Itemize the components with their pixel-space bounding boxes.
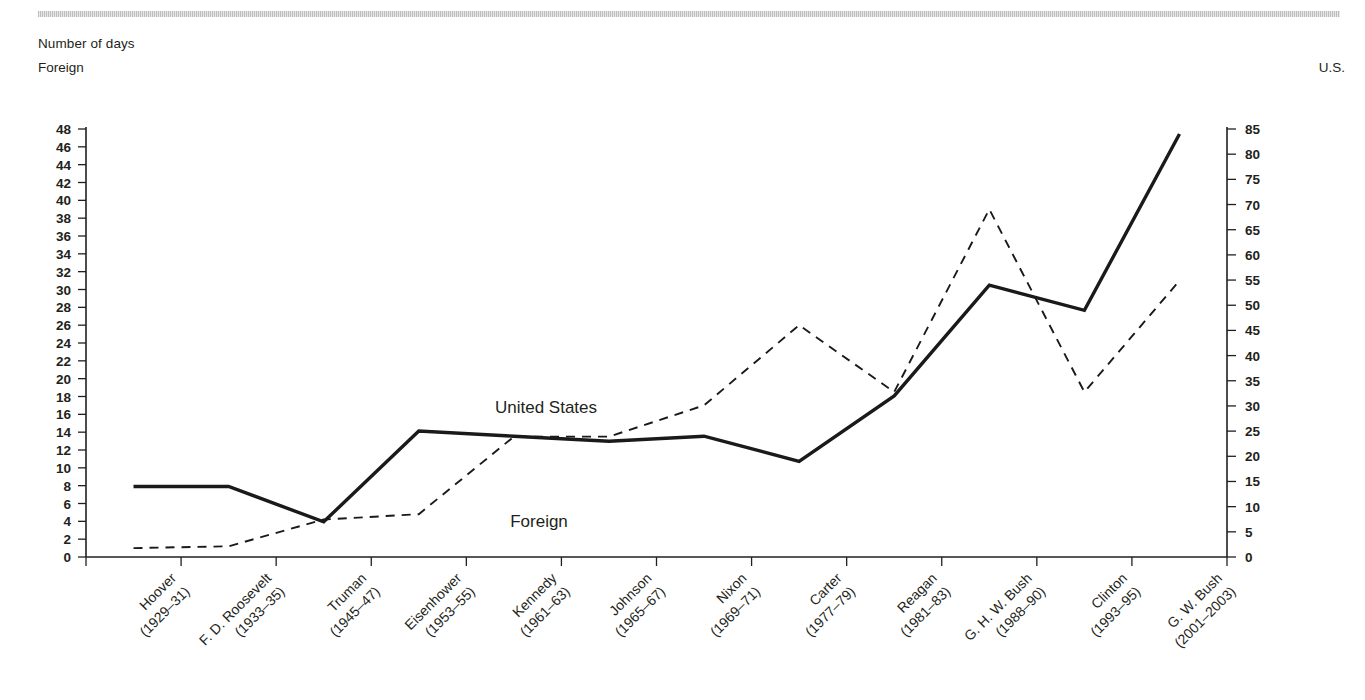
left-axis-tick-label: 8 — [63, 479, 71, 494]
x-axis-category-label: Reagan(1981–83) — [883, 570, 953, 640]
right-axis-tick-label: 35 — [1245, 374, 1261, 389]
right-axis-tick-label: 65 — [1245, 223, 1261, 238]
right-axis-tick-label: 10 — [1245, 500, 1260, 515]
left-axis-tick-label: 26 — [56, 318, 72, 333]
x-axis-category-label: Johnson(1965–67) — [598, 570, 668, 640]
right-axis-tick-label: 75 — [1245, 172, 1261, 187]
left-axis-tick-label: 12 — [56, 443, 71, 458]
left-axis-tick-label: 46 — [56, 140, 72, 155]
left-axis-tick-label: 24 — [56, 336, 72, 351]
left-axis-tick-label: 38 — [56, 211, 72, 226]
series-line-foreign — [134, 209, 1180, 548]
left-axis-tick-label: 32 — [56, 265, 71, 280]
x-axis-category-label: Clinton(1993–95) — [1074, 570, 1144, 640]
x-axis-category-label: Nixon(1969–71) — [693, 570, 763, 640]
left-axis-tick-label: 48 — [56, 122, 72, 137]
left-axis-tick-label: 40 — [56, 193, 71, 208]
x-axis-category-label: G. W. Bush(2001–2003) — [1158, 570, 1239, 651]
right-axis-tick-label: 85 — [1245, 122, 1261, 137]
x-axis-category-label: Kennedy(1961–63) — [503, 570, 573, 640]
right-axis-tick-label: 30 — [1245, 399, 1260, 414]
right-axis-tick-label: 40 — [1245, 349, 1260, 364]
right-axis-tick-label: 20 — [1245, 449, 1260, 464]
x-axis-category-label: Eisenhower(1953–55) — [401, 570, 478, 647]
right-axis-tick-label: 55 — [1245, 273, 1261, 288]
right-axis-tick-label: 70 — [1245, 198, 1260, 213]
right-axis-tick-label: 0 — [1245, 550, 1253, 565]
right-axis-tick-label: 15 — [1245, 474, 1261, 489]
x-axis-category-label: Truman(1945–47) — [313, 570, 383, 640]
x-axis-category-label: G. H. W. Bush(1988–90) — [961, 570, 1048, 657]
left-axis-tick-label: 22 — [56, 354, 71, 369]
right-axis-tick-label: 45 — [1245, 323, 1261, 338]
x-axis-category-label: F. D. Roosevelt(1933–35) — [196, 570, 288, 662]
right-axis-tick-label: 5 — [1245, 525, 1253, 540]
left-axis-tick-label: 4 — [63, 514, 71, 529]
series-label-foreign: Foreign — [510, 512, 568, 531]
line-chart: 0246810121416182022242628303234363840424… — [0, 0, 1365, 700]
left-axis-tick-label: 0 — [63, 550, 71, 565]
left-axis-tick-label: 20 — [56, 372, 71, 387]
left-axis-tick-label: 6 — [63, 497, 71, 512]
left-axis-tick-label: 34 — [56, 247, 72, 262]
chart-plot-area: 0246810121416182022242628303234363840424… — [0, 0, 1365, 700]
series-line-united-states — [134, 134, 1180, 522]
left-axis-tick-label: 36 — [56, 229, 72, 244]
left-axis-tick-label: 28 — [56, 300, 72, 315]
left-axis-tick-label: 42 — [56, 176, 71, 191]
series-label-united-states: United States — [495, 398, 597, 417]
left-axis-tick-label: 10 — [56, 461, 71, 476]
left-axis-tick-label: 18 — [56, 390, 72, 405]
right-axis-tick-label: 50 — [1245, 298, 1260, 313]
right-axis-tick-label: 80 — [1245, 147, 1260, 162]
x-axis-category-label: Carter(1977–79) — [788, 570, 858, 640]
left-axis-tick-label: 2 — [63, 532, 71, 547]
left-axis-tick-label: 30 — [56, 283, 71, 298]
x-axis-category-label: Hoover(1929–31) — [123, 570, 193, 640]
left-axis-tick-label: 44 — [56, 158, 72, 173]
left-axis-tick-label: 14 — [56, 425, 72, 440]
right-axis-tick-label: 60 — [1245, 248, 1260, 263]
right-axis-tick-label: 25 — [1245, 424, 1261, 439]
left-axis-tick-label: 16 — [56, 407, 72, 422]
